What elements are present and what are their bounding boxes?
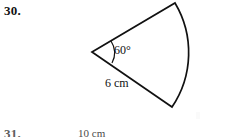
problem-number-31: 31. <box>4 126 21 137</box>
next-figure-dimension-label: 10 cm <box>78 127 105 137</box>
scan-artifact <box>196 112 200 119</box>
worksheet-page: 30. 60° 6 cm 31. 10 cm <box>0 0 229 137</box>
angle-measure-label: 60° <box>114 43 131 58</box>
radius-measure-label: 6 cm <box>105 76 129 91</box>
sector-figure-30 <box>0 0 229 137</box>
sector-outline <box>92 3 189 107</box>
